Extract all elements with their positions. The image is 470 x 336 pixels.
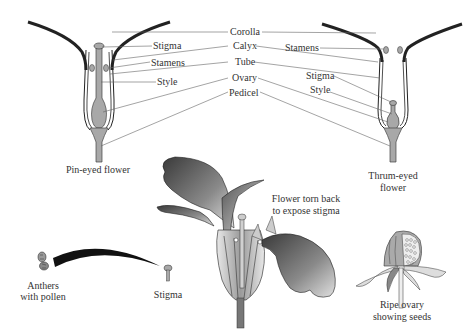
label-tube: Tube — [235, 56, 255, 67]
thrum-label-stamens: Stamens — [285, 42, 319, 53]
pin-label-style: Style — [157, 76, 178, 87]
thrum-label-stigma: Stigma — [306, 70, 334, 81]
thrum-eyed-flower — [322, 24, 462, 162]
pin-eyed-caption: Pin-eyed flower — [58, 164, 138, 175]
ripe-ovary — [356, 231, 446, 308]
pollination-illustration — [38, 249, 172, 281]
label-corolla: Corolla — [230, 26, 260, 37]
ripe-ovary-caption-1: Ripe ovary — [362, 299, 442, 310]
pin-eyed-flower — [28, 22, 170, 162]
thrum-eyed-caption-2: flower — [358, 182, 428, 193]
torn-flower-caption-1: Flower torn back — [266, 193, 346, 204]
ripe-ovary-caption-2: showing seeds — [362, 311, 442, 322]
label-calyx: Calyx — [233, 40, 257, 51]
thrum-eyed-caption-1: Thrum-eyed — [358, 170, 428, 181]
torn-flower — [157, 157, 335, 328]
pin-label-stigma: Stigma — [153, 40, 181, 51]
stigma-caption: Stigma — [148, 289, 188, 300]
label-ovary: Ovary — [232, 72, 257, 83]
thrum-label-style: Style — [310, 84, 331, 95]
anthers-caption-1: Anthers — [18, 280, 68, 291]
anthers-caption-2: with pollen — [13, 291, 73, 302]
label-pedicel: Pedicel — [229, 87, 258, 98]
anthers-icon — [38, 252, 49, 270]
torn-flower-caption-2: to expose stigma — [266, 205, 346, 216]
stigma-icon — [164, 265, 172, 281]
diagram-canvas: Corolla Calyx Tube Ovary Pedicel Stigma … — [0, 0, 470, 336]
pin-label-stamens: Stamens — [151, 57, 185, 68]
